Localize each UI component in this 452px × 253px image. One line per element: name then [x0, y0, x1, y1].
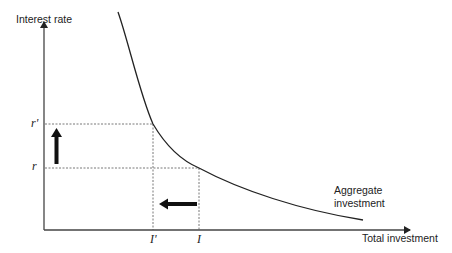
y-axis-label: Interest rate [16, 13, 72, 26]
x-axis-label: Total investment [362, 232, 438, 245]
tick-label-r-prime: r' [31, 116, 38, 130]
aggregate-investment-curve [118, 12, 363, 220]
left-arrow-icon [159, 199, 197, 210]
up-arrow-icon [51, 128, 62, 164]
tick-label-i: I [197, 232, 201, 246]
curve-label-line1: Aggregate [334, 184, 382, 197]
tick-label-r: r [32, 159, 37, 173]
curve-label-line2: investment [334, 197, 385, 210]
diagram-canvas [0, 0, 452, 253]
tick-label-i-prime: I' [150, 232, 157, 246]
